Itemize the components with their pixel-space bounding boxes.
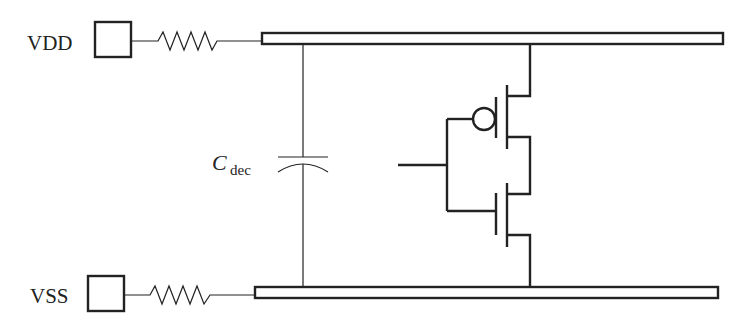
vss-resistor: [124, 286, 255, 304]
pmos-transistor: [447, 44, 530, 194]
vss-label: VSS: [30, 284, 69, 308]
circuit-diagram: VDD VSS C dec: [0, 0, 747, 326]
cdec-label: C: [212, 150, 227, 175]
cdec-subscript: dec: [230, 162, 251, 178]
vdd-resistor: [131, 32, 262, 50]
vss-rail: [255, 287, 718, 298]
decoupling-capacitor: [278, 44, 328, 287]
vdd-label: VDD: [27, 31, 73, 55]
pmos-bubble-icon: [473, 108, 495, 130]
cmos-inverter: [398, 44, 530, 287]
vdd-rail: [262, 33, 723, 44]
nmos-transistor: [447, 183, 530, 287]
vss-pad: [88, 276, 124, 311]
vdd-pad: [95, 22, 131, 57]
